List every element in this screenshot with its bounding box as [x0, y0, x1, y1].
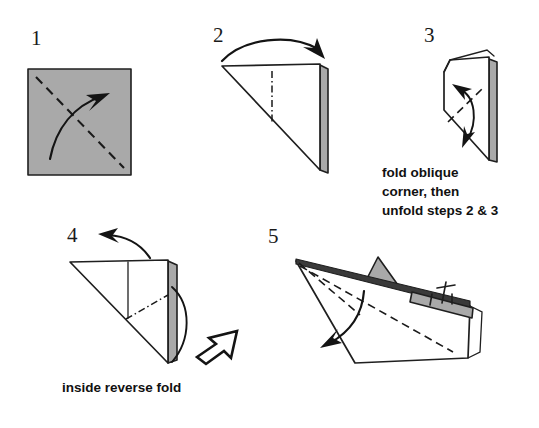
step-2-arrow-head [303, 38, 325, 59]
origami-diagram: 1 2 3 [0, 0, 539, 428]
step-4-group: 4 inside reverse fold [62, 223, 237, 395]
step-4-back-layer [168, 261, 177, 363]
step-3-back-layer [489, 59, 497, 162]
step-1-number: 1 [31, 26, 42, 50]
step-3-group: 3 fold oblique corner, then unfold steps… [382, 23, 499, 218]
step-5-number: 5 [268, 224, 279, 248]
step-4-push-arrow [197, 331, 237, 364]
step-3-front-panel [444, 57, 489, 160]
step-2-number: 2 [213, 23, 224, 47]
step-5-group: 5 [268, 224, 482, 363]
caption-step-4-line-1: inside reverse fold [62, 380, 181, 395]
step-1-group: 1 [28, 26, 131, 175]
step-4-triangle [70, 260, 168, 363]
step-2-back-layer [320, 65, 328, 173]
caption-step-3-line-3: unfold steps 2 & 3 [382, 203, 499, 218]
step-2-triangle [222, 64, 320, 170]
step-3-number: 3 [424, 23, 435, 47]
step-4-number: 4 [67, 223, 78, 247]
origami-instruction-sheet: 1 2 3 [0, 0, 539, 428]
step-2-arrow-curve [222, 40, 318, 61]
caption-step-3-line-1: fold oblique [382, 165, 459, 180]
caption-step-3-line-2: corner, then [382, 184, 459, 199]
step-2-group: 2 [213, 23, 328, 173]
